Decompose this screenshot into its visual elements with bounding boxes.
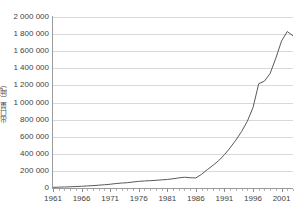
y-axis-tick-label: 1 200 000	[13, 81, 49, 89]
x-axis-tick	[150, 189, 151, 191]
x-axis-tick	[293, 189, 294, 191]
y-axis-tick-label: 1 800 000	[13, 30, 49, 38]
x-axis-tick	[64, 189, 65, 191]
x-axis-tick	[99, 189, 100, 191]
x-axis-tick	[116, 189, 117, 191]
x-axis-tick	[167, 189, 168, 192]
y-axis-tick-label: 2 000 000	[13, 13, 49, 21]
x-axis-tick-label: 1986	[187, 194, 205, 203]
x-axis-tick	[144, 189, 145, 191]
x-axis-tick	[207, 189, 208, 191]
x-axis-tick	[93, 189, 94, 191]
y-axis-tick-label: 200 000	[20, 167, 49, 175]
y-axis-tick-label: 1 000 000	[13, 99, 49, 107]
x-axis-tick	[264, 189, 265, 191]
x-axis-tick	[230, 189, 231, 191]
x-axis-tick	[213, 189, 214, 191]
x-axis-tick	[87, 189, 88, 191]
y-axis-tick-label: 800 000	[20, 116, 49, 124]
x-axis-tick-label: 1981	[158, 194, 176, 203]
y-axis-tick-label: 400 000	[20, 150, 49, 158]
x-axis-tick	[224, 189, 225, 192]
y-axis-tick-label: 1 400 000	[13, 64, 49, 72]
x-axis-tick	[162, 189, 163, 191]
x-axis-tick	[179, 189, 180, 191]
x-axis-tick	[196, 189, 197, 192]
x-axis-tick	[110, 189, 111, 192]
x-axis-tick-label: 1971	[101, 194, 119, 203]
x-axis-tick-label: 1976	[130, 194, 148, 203]
x-axis-tick	[70, 189, 71, 191]
x-axis-ticks	[53, 189, 293, 193]
x-axis-tick	[122, 189, 123, 191]
x-axis-tick	[156, 189, 157, 191]
x-axis-tick-label: 1961	[44, 194, 62, 203]
y-axis-tick-label: 600 000	[20, 133, 49, 141]
x-axis-tick-label: 1966	[73, 194, 91, 203]
x-axis-tick	[270, 189, 271, 191]
x-axis-tick	[282, 189, 283, 192]
x-axis-tick-label: 1996	[244, 194, 262, 203]
x-axis-tick	[202, 189, 203, 191]
y-axis-title: 出口量（吨）	[0, 54, 13, 150]
series-line-export-volume	[53, 17, 293, 188]
x-axis-tick	[59, 189, 60, 191]
x-axis-tick	[219, 189, 220, 191]
x-axis-tick	[253, 189, 254, 192]
x-axis-tick	[127, 189, 128, 191]
x-axis-tick	[276, 189, 277, 191]
x-axis-tick	[173, 189, 174, 191]
x-axis-tick	[287, 189, 288, 191]
x-axis-tick	[133, 189, 134, 191]
x-axis-tick	[82, 189, 83, 192]
x-axis-tick-label: 1991	[216, 194, 234, 203]
x-axis-tick-labels: 196119661971197619811986199119962001	[0, 194, 297, 210]
x-axis-tick	[53, 189, 54, 192]
x-axis-tick	[104, 189, 105, 191]
x-axis-tick-label: 2001	[273, 194, 291, 203]
x-axis-tick	[247, 189, 248, 191]
x-axis-tick	[184, 189, 185, 191]
x-axis-tick	[190, 189, 191, 191]
y-axis-tick-label: 1 600 000	[13, 47, 49, 55]
plot-area	[53, 17, 293, 188]
x-axis-tick	[76, 189, 77, 191]
y-axis-tick-labels: 2 000 0001 800 0001 600 0001 400 0001 20…	[13, 0, 51, 212]
x-axis-tick	[259, 189, 260, 191]
x-axis-tick	[242, 189, 243, 191]
y-axis-tick-label: 0	[45, 184, 49, 192]
x-axis-tick	[236, 189, 237, 191]
export-volume-line-chart: 出口量（吨） 2 000 0001 800 0001 600 0001 400 …	[0, 0, 297, 212]
x-axis-tick	[139, 189, 140, 192]
